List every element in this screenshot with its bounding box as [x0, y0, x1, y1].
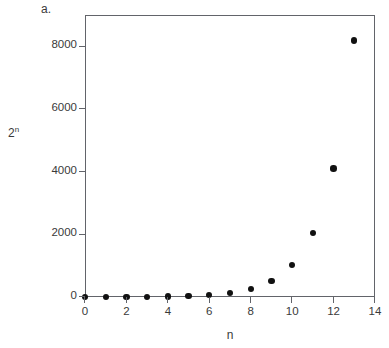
x-axis-tick-mark	[84, 297, 85, 303]
x-axis-tick-label: 12	[322, 305, 346, 317]
x-axis-tick-mark	[333, 297, 334, 303]
y-axis-title-exponent: n	[15, 125, 19, 134]
y-axis-tick-mark	[79, 171, 85, 172]
y-axis-title-base: 2	[8, 126, 15, 140]
y-axis-tick-mark	[79, 234, 85, 235]
x-axis-tick-mark	[209, 297, 210, 303]
x-axis-tick-mark	[126, 297, 127, 303]
x-axis-tick-label: 6	[197, 305, 221, 317]
x-axis-tick-mark	[374, 297, 375, 303]
data-point	[185, 293, 191, 299]
plot-area	[85, 15, 375, 297]
data-point	[227, 290, 233, 296]
x-axis-tick-mark	[250, 297, 251, 303]
panel-label: a.	[41, 2, 51, 16]
y-axis-tick-label: 2000	[51, 226, 77, 238]
data-point	[289, 262, 295, 268]
x-axis-tick-label: 0	[73, 305, 97, 317]
data-point	[310, 230, 316, 236]
x-axis-tick-mark	[291, 297, 292, 303]
y-axis-title: 2n	[8, 126, 19, 140]
data-point	[248, 286, 254, 292]
data-point	[268, 278, 274, 284]
y-axis-tick-label: 0	[71, 289, 77, 301]
y-axis-tick-label: 6000	[51, 101, 77, 113]
data-point	[351, 37, 357, 43]
y-axis-tick-label: 4000	[51, 164, 77, 176]
y-axis-tick-mark	[79, 46, 85, 47]
x-axis-tick-mark	[167, 297, 168, 303]
y-axis-tick-mark	[79, 108, 85, 109]
x-axis-tick-label: 2	[114, 305, 138, 317]
x-axis-tick-label: 8	[239, 305, 263, 317]
x-axis-tick-label: 4	[156, 305, 180, 317]
x-axis-tick-label: 14	[363, 305, 387, 317]
data-point	[144, 294, 150, 300]
figure-panel: a. 2n n 0200040006000800002468101214	[0, 0, 389, 348]
y-axis-tick-label: 8000	[51, 38, 77, 50]
data-point	[330, 165, 336, 171]
data-point	[103, 294, 109, 300]
x-axis-tick-label: 10	[280, 305, 304, 317]
x-axis-title: n	[85, 328, 375, 342]
